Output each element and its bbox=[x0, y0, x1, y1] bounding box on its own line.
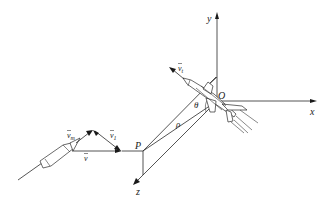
z-axis bbox=[136, 101, 217, 182]
point-p-label: P bbox=[134, 140, 141, 151]
missile-velocity-arrow-icon bbox=[86, 130, 93, 136]
target-velocity-label: vt bbox=[178, 64, 184, 74]
target-velocity-arrow-icon bbox=[169, 67, 176, 73]
velocity-1-label: v1 bbox=[110, 131, 117, 141]
missile-icon bbox=[18, 138, 80, 180]
engagement-diagram: y x z O P θ ρ bbox=[0, 0, 333, 206]
theta-label: θ bbox=[194, 100, 199, 110]
velocity-label: v bbox=[84, 154, 88, 163]
x-axis-arrow-icon bbox=[310, 99, 317, 103]
missile-velocity-label: vm bbox=[67, 131, 76, 141]
rho-label: ρ bbox=[175, 119, 181, 129]
apex-arrow-icon bbox=[93, 130, 99, 136]
y-axis-label: y bbox=[206, 13, 212, 24]
x-axis-label: x bbox=[309, 106, 315, 117]
y-axis-arrow-icon bbox=[215, 12, 219, 19]
z-axis-label: z bbox=[135, 186, 140, 197]
